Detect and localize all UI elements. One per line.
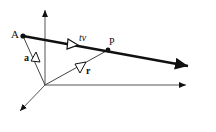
vector-line-diagram: A P a r tv <box>0 0 216 132</box>
diagram-canvas: A P a r tv <box>0 0 216 132</box>
label-A: A <box>11 28 19 40</box>
depth-axis <box>20 85 45 111</box>
label-P: P <box>109 36 115 47</box>
vector-r-arrow-icon <box>75 62 86 73</box>
label-a: a <box>24 52 29 63</box>
label-tv: tv <box>79 32 87 43</box>
point-A-dot <box>20 33 25 38</box>
label-r: r <box>86 65 91 76</box>
vector-tv-arrow-icon <box>67 39 78 49</box>
line-through-A <box>23 36 188 66</box>
point-P-dot <box>106 48 111 53</box>
